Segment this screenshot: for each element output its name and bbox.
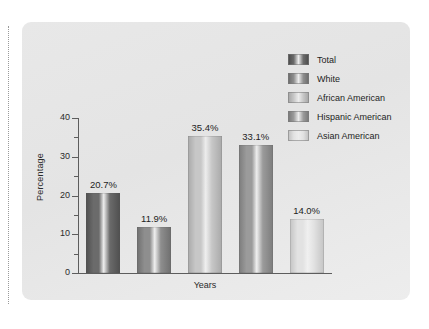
legend-item-total[interactable]: Total — [288, 50, 406, 69]
page-margin-guide — [8, 26, 10, 304]
chart-legend: TotalWhiteAfrican AmericanHispanic Ameri… — [288, 50, 406, 145]
y-axis-tick-label: 0 — [34, 268, 70, 277]
y-axis-tick-label-text: 40 — [40, 113, 70, 122]
y-axis-title: Percentage — [35, 137, 45, 217]
y-axis-tick-label-text: 10 — [40, 229, 70, 238]
y-axis-tick-major — [72, 118, 79, 119]
legend-item-asian-american[interactable]: Asian American — [288, 126, 406, 145]
bar-value-label: 33.1% — [242, 131, 269, 142]
bar-value-label: 11.9% — [141, 213, 167, 224]
y-axis-tick-label-text: 0 — [40, 268, 70, 277]
legend-swatch — [288, 92, 309, 103]
bar-asian-american: 14.0% — [290, 219, 324, 273]
x-axis-title: Years — [78, 280, 332, 290]
legend-swatch — [288, 130, 309, 141]
y-axis-tick-major — [72, 273, 79, 274]
legend-swatch — [288, 111, 309, 122]
legend-label: White — [317, 74, 340, 84]
y-axis-tick-major — [72, 234, 79, 235]
bar-african-american: 35.4% — [188, 136, 222, 273]
legend-label: Hispanic American — [317, 112, 392, 122]
legend-label: Total — [317, 55, 336, 65]
legend-item-white[interactable]: White — [288, 69, 406, 88]
y-axis-tick-label: 40 — [34, 113, 70, 122]
bar-white: 11.9% — [137, 227, 171, 273]
bar-hispanic-american: 33.1% — [239, 145, 273, 273]
y-axis-tick-major — [72, 196, 79, 197]
legend-item-hispanic-american[interactable]: Hispanic American — [288, 107, 406, 126]
bar-value-label: 20.7% — [90, 179, 117, 190]
bar-value-label: 14.0% — [293, 205, 320, 216]
bar-total: 20.7% — [86, 193, 120, 273]
y-axis-tick-minor — [74, 254, 79, 255]
legend-swatch — [288, 54, 309, 65]
y-axis-tick-label: 10 — [34, 229, 70, 238]
y-axis-tick-minor — [74, 215, 79, 216]
bar-value-label: 35.4% — [192, 122, 219, 133]
y-axis-tick-minor — [74, 176, 79, 177]
chart-panel: 010203040 Percentage Years 20.7%11.9%35.… — [22, 22, 410, 300]
y-axis-tick-major — [72, 157, 79, 158]
legend-label: Asian American — [317, 131, 380, 141]
x-axis-line — [78, 273, 332, 274]
legend-item-african-american[interactable]: African American — [288, 88, 406, 107]
y-axis-tick-minor — [74, 137, 79, 138]
legend-swatch — [288, 73, 309, 84]
legend-label: African American — [317, 93, 385, 103]
